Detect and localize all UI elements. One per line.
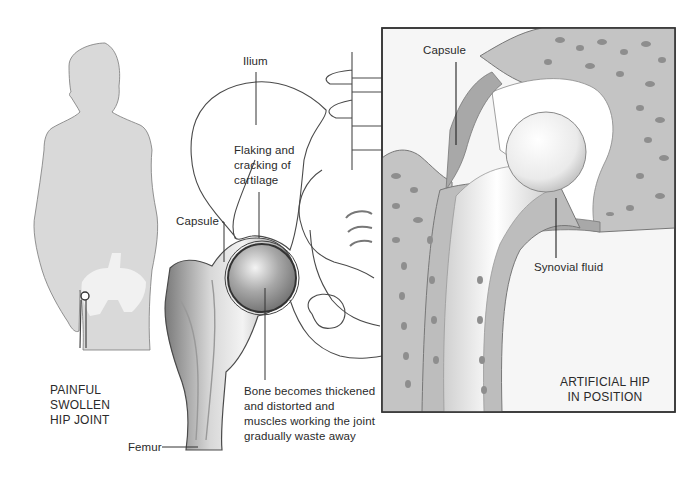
artificial-hip-inset	[382, 28, 675, 412]
label-ilium: Ilium	[243, 54, 268, 69]
title-line: IN POSITION	[550, 390, 660, 405]
label-line: cracking of	[234, 158, 295, 173]
label-line: Flaking and	[234, 143, 295, 158]
hip-diagram: Ilium Flaking and cracking of cartilage …	[0, 0, 682, 495]
label-synovial-fluid: Synovial fluid	[534, 260, 603, 275]
label-flaking-cartilage: Flaking and cracking of cartilage	[234, 143, 295, 188]
human-silhouette	[34, 43, 158, 350]
title-line: HIP JOINT	[50, 413, 110, 428]
label-bone-thickened: Bone becomes thickened and distorted and…	[244, 384, 375, 444]
label-line: Bone becomes thickened	[244, 384, 375, 399]
label-line: cartilage	[234, 173, 295, 188]
title-line: SWOLLEN	[50, 398, 110, 413]
label-line: and distorted and	[244, 399, 375, 414]
left-panel-title: PAINFUL SWOLLEN HIP JOINT	[50, 383, 110, 428]
label-line: gradually waste away	[244, 429, 375, 444]
title-line: ARTIFICIAL HIP	[550, 375, 660, 390]
title-line: PAINFUL	[50, 383, 110, 398]
label-femur: Femur	[128, 440, 162, 455]
label-capsule-inset: Capsule	[423, 43, 466, 58]
label-line: muscles working the joint	[244, 414, 375, 429]
inset-title: ARTIFICIAL HIP IN POSITION	[550, 375, 660, 405]
label-capsule-left: Capsule	[176, 214, 219, 229]
